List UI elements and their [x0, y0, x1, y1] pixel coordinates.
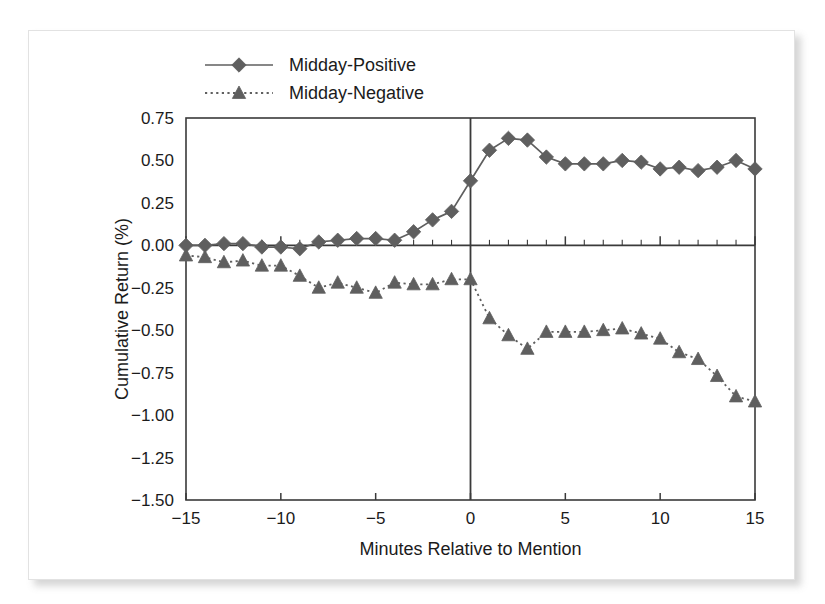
series-marker	[445, 272, 458, 284]
series-marker	[521, 342, 534, 354]
y-axis-title: Cumulative Return (%)	[112, 218, 132, 400]
cumulative-return-line-chart: Midday-PositiveMidday-Negative −15−10−50…	[0, 0, 825, 604]
y-tick-label: 0.25	[141, 194, 174, 213]
series-marker	[179, 249, 192, 261]
series-marker	[634, 155, 648, 169]
series-marker	[482, 143, 496, 157]
series-marker	[729, 153, 743, 167]
series-marker	[312, 281, 325, 293]
x-tick-label: −10	[266, 509, 295, 528]
series-marker	[407, 277, 420, 289]
series-marker	[672, 160, 686, 174]
chart-legend: Midday-PositiveMidday-Negative	[205, 55, 424, 103]
series-marker	[654, 332, 667, 344]
series-marker	[748, 395, 761, 407]
series-marker	[255, 240, 269, 254]
series-marker	[691, 352, 704, 364]
series-marker	[274, 240, 288, 254]
chart-labels: −15−10−50510150.750.500.250.00−0.25−0.50…	[112, 109, 764, 559]
series-marker	[198, 250, 211, 262]
series-marker	[672, 345, 685, 357]
y-tick-label: 0.75	[141, 109, 174, 128]
x-tick-label: −5	[366, 509, 385, 528]
y-tick-label: −0.50	[131, 321, 174, 340]
series-marker	[540, 325, 553, 337]
series-marker	[596, 157, 610, 171]
series-marker	[331, 276, 344, 288]
series-marker	[350, 231, 364, 245]
y-tick-label: −0.75	[131, 364, 174, 383]
series-marker	[616, 322, 629, 334]
series-marker	[425, 213, 439, 227]
x-tick-label: 10	[651, 509, 670, 528]
series-marker	[369, 286, 382, 298]
series-marker	[444, 204, 458, 218]
series-marker	[558, 157, 572, 171]
x-tick-label: −15	[172, 509, 201, 528]
series-marker	[729, 389, 742, 401]
legend-marker-sample	[232, 58, 246, 72]
series-marker	[236, 254, 249, 266]
series-marker	[406, 225, 420, 239]
series-marker	[217, 236, 231, 250]
series-marker	[710, 160, 724, 174]
series-marker	[388, 276, 401, 288]
chart-stage: Midday-PositiveMidday-Negative −15−10−50…	[0, 0, 825, 604]
y-tick-label: −1.25	[131, 449, 174, 468]
y-tick-label: 0.50	[141, 151, 174, 170]
series-marker	[710, 369, 723, 381]
series-marker	[748, 162, 762, 176]
series-marker	[255, 259, 268, 271]
y-tick-label: −0.25	[131, 279, 174, 298]
series-marker	[368, 231, 382, 245]
y-tick-label: 0.00	[141, 236, 174, 255]
series-marker	[463, 174, 477, 188]
series-marker	[501, 131, 515, 145]
series-marker	[653, 162, 667, 176]
series-marker	[236, 236, 250, 250]
series-marker	[483, 311, 496, 323]
x-tick-label: 15	[746, 509, 765, 528]
series-marker	[615, 153, 629, 167]
series-marker	[691, 163, 705, 177]
x-axis-title: Minutes Relative to Mention	[359, 539, 581, 559]
series-marker	[293, 242, 307, 256]
legend-label: Midday-Positive	[289, 55, 416, 75]
x-tick-label: 0	[466, 509, 475, 528]
series-marker	[293, 269, 306, 281]
legend-label: Midday-Negative	[289, 83, 424, 103]
y-tick-label: −1.50	[131, 491, 174, 510]
x-tick-label: 5	[561, 509, 570, 528]
y-tick-label: −1.00	[131, 406, 174, 425]
series-marker	[312, 235, 326, 249]
series-marker	[577, 157, 591, 171]
